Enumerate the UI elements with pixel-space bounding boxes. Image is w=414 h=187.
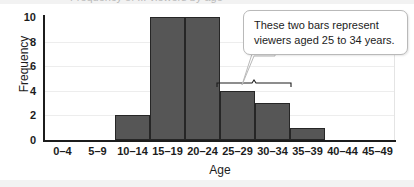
bar-10–14	[115, 115, 150, 140]
chart-screenshot: Frequency of ... viewers by age 0246810 …	[0, 0, 414, 187]
y-tick-label: 0	[2, 135, 36, 146]
y-tick-label: 2	[2, 110, 36, 121]
x-tick-label: 45–49	[356, 145, 399, 157]
callout-tail	[240, 53, 276, 86]
bar-25–29	[220, 91, 255, 140]
bar-20–24	[185, 17, 220, 140]
x-axis-label: Age	[45, 163, 395, 177]
y-axis-label: Frequency	[17, 16, 31, 112]
callout-text: These two bars represent viewers aged 25…	[254, 18, 402, 48]
bar-35–39	[290, 128, 325, 140]
bar-30–34	[255, 103, 290, 140]
bar-15–19	[150, 17, 185, 140]
clipped-chart-title: Frequency of ... viewers by age	[70, 0, 350, 3]
x-axis-line	[43, 140, 396, 142]
callout-bubble: These two bars represent viewers aged 25…	[243, 10, 408, 55]
